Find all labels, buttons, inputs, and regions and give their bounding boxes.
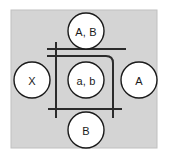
node-top-label: A, B xyxy=(75,26,97,38)
node-top: A, B xyxy=(68,13,104,49)
node-right: A xyxy=(121,62,157,98)
node-bottom: B xyxy=(68,112,104,148)
node-right-label: A xyxy=(135,75,143,87)
node-bottom-label: B xyxy=(82,125,90,137)
node-center: a, b xyxy=(68,62,104,98)
diagram-canvas: A, BXa, bAB xyxy=(0,0,169,160)
diagram-figure: A, BXa, bAB xyxy=(0,0,169,160)
node-center-label: a, b xyxy=(76,75,95,87)
node-left: X xyxy=(14,62,50,98)
node-left-label: X xyxy=(28,75,36,87)
